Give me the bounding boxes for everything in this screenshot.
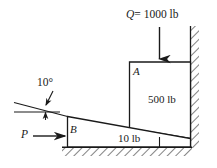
fixed-ground: [62, 147, 192, 156]
wedge-weight-label: 10 lb: [118, 133, 140, 144]
fixed-vertical-wall: [191, 26, 200, 148]
block-b-label: B: [70, 124, 77, 135]
block-a-weight-label: 500 lb: [148, 94, 176, 105]
incline-reference-lines: [14, 103, 68, 117]
incline-angle-label: 10°: [37, 77, 53, 89]
block-a-label: A: [133, 66, 140, 77]
load-q-value: = 1000 lb: [134, 8, 178, 20]
force-p-label: P: [21, 129, 28, 141]
engineering-figure: Q= 1000 lb A 500 lb B 10 lb P 10°: [0, 0, 217, 168]
figure-drawing: [0, 0, 217, 168]
angle-dimension-arrows: [46, 91, 54, 120]
load-q-label: Q= 1000 lb: [126, 9, 179, 21]
